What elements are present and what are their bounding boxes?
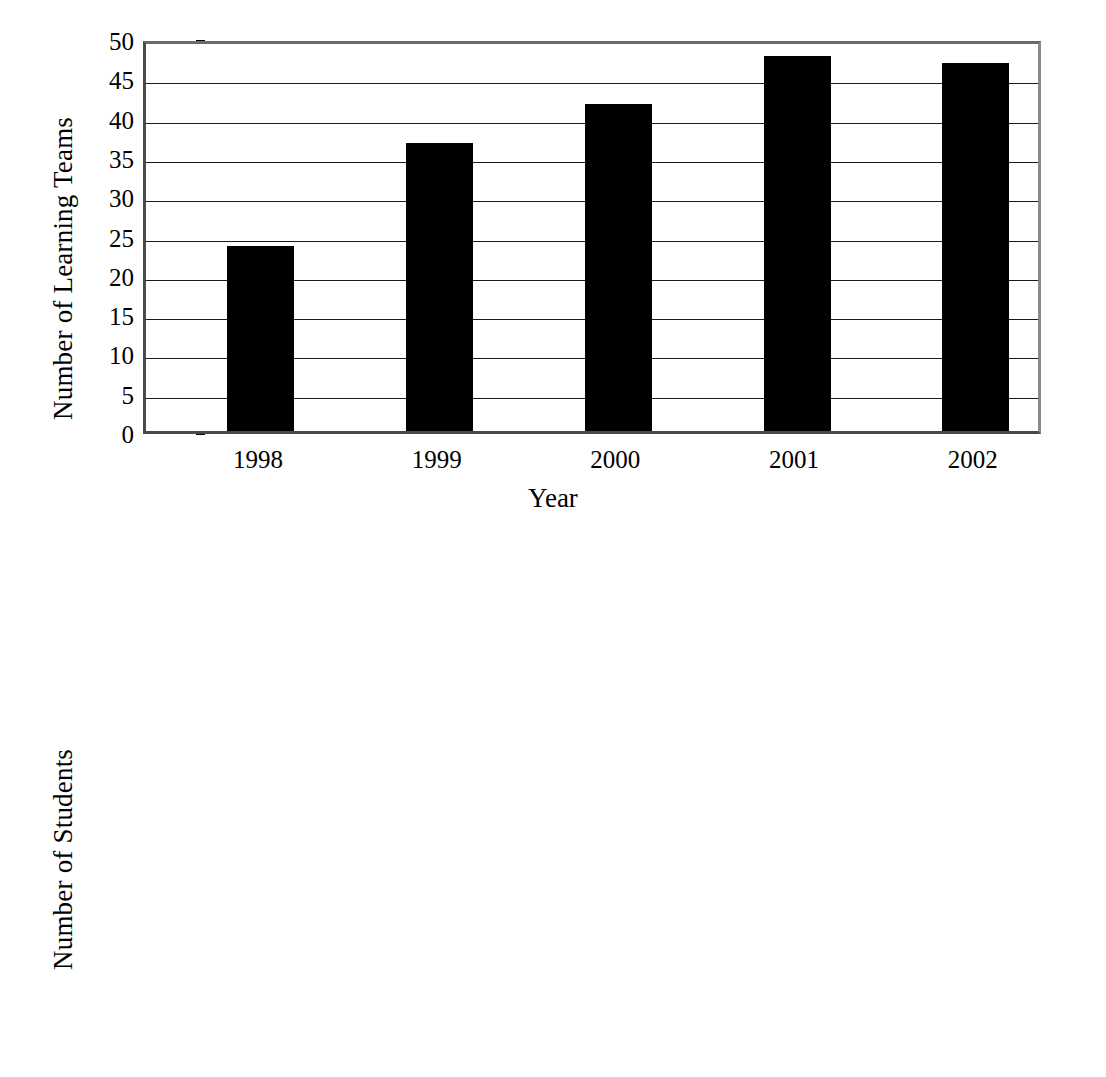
y-axis-tick-label: 20: [109, 264, 134, 289]
x-axis-tick-label: 1998: [233, 446, 283, 474]
x-axis-tick-label: 1999: [412, 446, 462, 474]
y-axis-tick-label: 45: [109, 68, 134, 93]
y-axis-tick-label: 50: [109, 29, 134, 54]
x-axis-tick-label: 2001: [769, 446, 819, 474]
y-axis-tick-label: 25: [109, 225, 134, 250]
x-axis-tick-label: 2000: [590, 446, 640, 474]
y-axis-tick-label: 35: [109, 146, 134, 171]
y-axis-tick-label: 5: [122, 382, 135, 407]
bar: [406, 143, 473, 431]
x-axis-title-learning-teams: Year: [0, 483, 1106, 514]
chart-learning-teams: Number of Learning Teams 051015202530354…: [0, 0, 1106, 530]
y-axis-tick-label: 40: [109, 107, 134, 132]
bar: [764, 56, 831, 431]
y-axis-tick-label: 30: [109, 186, 134, 211]
bar: [942, 63, 1009, 431]
bar: [227, 246, 294, 431]
y-axis-tick-label: 0: [122, 422, 135, 447]
x-axis-ticks-learning-teams: 19981999200020012002: [0, 446, 1106, 480]
y-axis-tick-label: 10: [109, 343, 134, 368]
bar: [585, 104, 652, 431]
bars-learning-teams: [146, 44, 1038, 431]
x-axis-tick-label: 2002: [948, 446, 998, 474]
y-axis-tick-label: 15: [109, 304, 134, 329]
y-axis-ticks-students: 05001000150020002500: [40, 545, 152, 1077]
plot-area-learning-teams: [143, 41, 1041, 434]
chart-students: Number of Students 05001000150020002500 …: [0, 545, 1106, 1077]
